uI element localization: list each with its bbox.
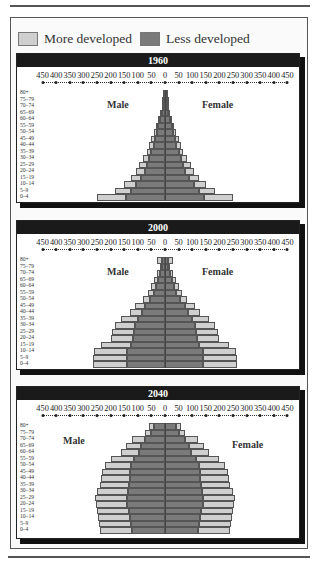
x-axis-tick-dot — [218, 248, 221, 251]
bar-male-less-developed — [126, 194, 165, 201]
x-tick-label: 50 — [147, 71, 155, 80]
x-axis-tick-dot — [136, 414, 139, 417]
x-axis-tick-labels: 4504003503002502001501005005010015020025… — [17, 71, 299, 81]
panel-title: 2040 — [17, 387, 299, 400]
x-tick-label: 450 — [281, 238, 293, 247]
x-axis-tick-dot — [204, 414, 207, 417]
x-axis-tick-dot — [109, 414, 112, 417]
x-tick-label: 50 — [174, 71, 182, 80]
x-tick-label: 200 — [104, 71, 116, 80]
panel-body: 1960450400350300250200150100500501001502… — [16, 53, 300, 203]
x-axis-tick-dot — [272, 248, 275, 251]
x-tick-label: 100 — [132, 238, 144, 247]
age-row — [17, 361, 299, 368]
x-axis-tick-dot — [150, 81, 153, 84]
x-tick-label: 300 — [240, 238, 252, 247]
x-tick-label: 150 — [118, 404, 130, 413]
x-tick-label: 150 — [118, 238, 130, 247]
x-axis-tick-dot — [68, 81, 71, 84]
center-axis-line — [165, 257, 166, 368]
x-axis-tick-labels: 4504003503002502001501005005010015020025… — [17, 238, 299, 248]
x-axis-tick-dot — [96, 81, 99, 84]
panel-title: 2000 — [17, 221, 299, 234]
x-tick-label: 350 — [64, 71, 76, 80]
x-axis-tick-dot — [245, 414, 248, 417]
x-tick-label: 300 — [240, 404, 252, 413]
x-axis-tick-dot — [204, 81, 207, 84]
x-axis-tick-dot — [55, 414, 58, 417]
x-tick-label: 400 — [50, 71, 62, 80]
x-tick-label: 450 — [36, 404, 48, 413]
x-tick-label: 50 — [147, 238, 155, 247]
x-tick-label: 350 — [64, 238, 76, 247]
x-tick-label: 450 — [281, 404, 293, 413]
x-axis-tick-dot — [68, 248, 71, 251]
x-tick-label: 150 — [200, 238, 212, 247]
x-tick-label: 300 — [77, 404, 89, 413]
x-axis-tick-dot — [191, 414, 194, 417]
x-tick-label: 0 — [163, 404, 167, 413]
x-axis-tick-dot — [109, 81, 112, 84]
x-axis-tick-dot — [259, 81, 262, 84]
legend-label: Less developed — [166, 31, 250, 47]
pyramid-panel-2000: 2000450400350300250200150100500501001502… — [16, 220, 300, 370]
x-axis-tick-dot — [245, 81, 248, 84]
bar-female-less-developed — [165, 194, 204, 201]
x-axis-tick-dot — [82, 414, 85, 417]
legend-label: More developed — [44, 31, 132, 47]
x-axis-tick-dot — [150, 248, 153, 251]
legend-item-less-developed: Less developed — [140, 31, 250, 47]
x-tick-label: 450 — [281, 71, 293, 80]
x-tick-label: 450 — [36, 71, 48, 80]
x-axis-tick-dot — [232, 81, 235, 84]
x-tick-label: 250 — [227, 238, 239, 247]
x-tick-label: 50 — [147, 404, 155, 413]
x-tick-label: 100 — [132, 71, 144, 80]
x-axis-tick-dot — [177, 248, 180, 251]
bar-female-more-developed — [203, 361, 238, 368]
x-axis-tick-dot — [191, 248, 194, 251]
bar-male-more-developed — [93, 361, 128, 368]
top-rule — [10, 5, 310, 7]
x-axis-tick-dot — [191, 81, 194, 84]
x-axis-tick-dot — [82, 81, 85, 84]
x-axis-tick-dot — [272, 414, 275, 417]
x-tick-label: 200 — [104, 404, 116, 413]
x-tick-label: 50 — [174, 238, 182, 247]
x-tick-label: 200 — [213, 71, 225, 80]
x-axis-tick-dot — [41, 248, 44, 251]
legend-swatch-less-developed — [140, 32, 160, 46]
x-tick-label: 400 — [268, 238, 280, 247]
x-tick-label: 200 — [213, 404, 225, 413]
x-tick-label: 400 — [50, 238, 62, 247]
x-tick-label: 100 — [132, 404, 144, 413]
x-tick-label: 250 — [91, 404, 103, 413]
x-axis-tick-dot — [123, 81, 126, 84]
x-tick-label: 300 — [77, 238, 89, 247]
x-tick-label: 250 — [91, 238, 103, 247]
x-tick-label: 0 — [163, 238, 167, 247]
x-axis-tick-dot — [41, 81, 44, 84]
x-axis-tick-dot — [41, 414, 44, 417]
x-tick-label: 250 — [227, 404, 239, 413]
x-axis-tick-dot — [68, 414, 71, 417]
bar-male-less-developed — [132, 527, 165, 534]
x-axis-tick-labels: 4504003503002502001501005005010015020025… — [17, 404, 299, 414]
bar-male-more-developed — [97, 194, 126, 201]
x-tick-label: 200 — [104, 238, 116, 247]
x-tick-label: 150 — [200, 404, 212, 413]
x-axis-tick-dot — [259, 414, 262, 417]
pyramid-bars — [17, 257, 299, 368]
x-tick-label: 150 — [200, 71, 212, 80]
panel-title: 1960 — [17, 54, 299, 67]
center-axis-line — [165, 423, 166, 534]
legend-item-more-developed: More developed — [18, 31, 132, 47]
panel-body: 2040450400350300250200150100500501001502… — [16, 386, 300, 539]
x-tick-label: 100 — [186, 71, 198, 80]
legend: More developed Less developed — [18, 31, 258, 47]
age-row — [17, 194, 299, 201]
x-axis-tick-dot — [123, 248, 126, 251]
x-tick-label: 350 — [64, 404, 76, 413]
x-axis-tick-dot — [55, 81, 58, 84]
x-tick-label: 400 — [268, 71, 280, 80]
